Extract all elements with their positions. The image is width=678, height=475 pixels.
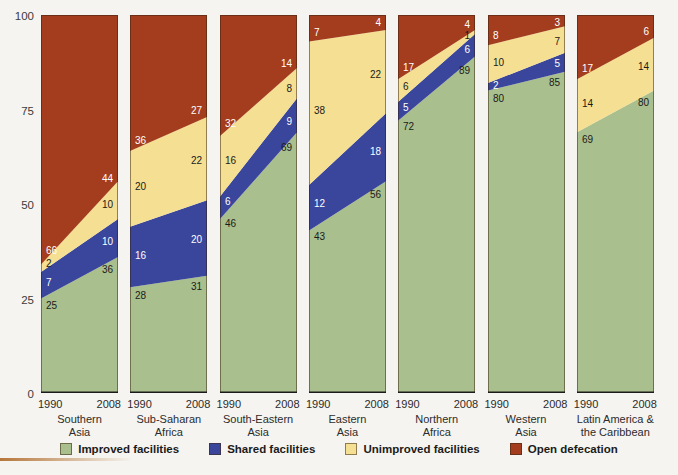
y-axis-tick-100: 100 [0,9,34,23]
value-label-unimproved-2008: 22 [370,69,382,80]
legend-item-open: Open defecation [510,443,618,455]
stacked-area-chart-south-eastern-asia: 4661632699814 [220,15,297,393]
value-label-improved-2008: 36 [102,264,114,275]
value-label-open-2008: 14 [280,58,292,69]
x-tick-2008: 2008 [543,398,567,410]
x-axis-years: 19902008 [395,398,478,410]
value-label-shared-2008: 6 [465,44,471,55]
stacked-area-chart-eastern-asia: 43123875618224 [309,15,386,393]
x-tick-2008: 2008 [97,398,121,410]
region-panel-southern-asia: 2572663610104419902008SouthernAsia [41,15,118,439]
x-tick-1990: 1990 [217,398,241,410]
value-label-unimproved-2008: 10 [102,199,114,210]
y-axis-tick-0: 0 [0,387,34,401]
page-accent-strip [0,458,132,461]
value-label-improved-1990: 80 [493,93,505,104]
legend-swatch-unimproved [345,443,357,455]
value-label-open-1990: 17 [403,62,415,73]
legend-item-improved: Improved facilities [60,443,179,455]
value-label-unimproved-2008: 14 [638,61,650,72]
value-label-improved-2008: 85 [548,77,560,88]
value-label-open-1990: 17 [582,63,594,74]
x-tick-1990: 1990 [395,398,419,410]
value-label-shared-1990: 6 [225,196,231,207]
region-name-line: the Caribbean [553,426,677,439]
value-label-improved-1990: 69 [582,134,594,145]
value-label-improved-1990: 46 [225,218,237,229]
value-label-unimproved-2008: 8 [286,83,292,94]
region-panel-western-asia: 8021088557319902008WesternAsia [488,15,565,439]
value-label-unimproved-2008: 22 [191,155,203,166]
stacked-area-chart-southern-asia: 25726636101044 [41,15,118,393]
region-panel-eastern-asia: 4312387561822419902008EasternAsia [309,15,386,439]
region-name-line: Latin America & [553,413,677,426]
region-panel-latin-america-the-caribbean: 6914178014619902008Latin America &the Ca… [577,15,654,439]
x-tick-2008: 2008 [275,398,299,410]
value-label-open-2008: 6 [643,26,649,37]
value-label-improved-2008: 69 [280,142,292,153]
value-label-open-1990: 7 [314,27,320,38]
value-label-open-1990: 66 [46,245,58,256]
x-tick-1990: 1990 [38,398,62,410]
value-label-unimproved-1990: 6 [403,81,409,92]
stacked-area-chart-western-asia: 80210885573 [488,15,565,393]
x-axis-years: 19902008 [38,398,121,410]
x-tick-1990: 1990 [306,398,330,410]
value-label-shared-1990: 7 [46,277,52,288]
value-label-shared-2008: 18 [370,146,382,157]
x-axis-years: 19902008 [217,398,300,410]
value-label-improved-1990: 43 [314,231,326,242]
legend-label-open: Open defecation [528,443,618,455]
sanitation-coverage-figure: 0255075100 2572663610104419902008Souther… [0,0,678,475]
value-label-improved-1990: 28 [135,290,147,301]
legend-swatch-open [510,443,522,455]
legend: Improved facilitiesShared facilitiesUnim… [0,443,678,455]
value-label-open-2008: 27 [191,105,203,116]
value-label-improved-2008: 80 [638,97,650,108]
region-panel-south-eastern-asia: 466163269981419902008South-EasternAsia [220,15,297,439]
value-label-shared-1990: 12 [314,198,326,209]
band-improved [488,72,565,393]
value-label-improved-2008: 56 [370,189,382,200]
value-label-improved-1990: 72 [403,121,415,132]
x-tick-1990: 1990 [485,398,509,410]
y-axis-tick-25: 25 [0,293,34,307]
region-name-latin-america-the-caribbean: Latin America &the Caribbean [553,413,677,439]
region-panel-northern-africa: 7256178961419902008NorthernAfrica [398,15,475,439]
value-label-unimproved-2008: 1 [465,30,471,41]
value-label-shared-2008: 5 [554,58,560,69]
value-label-open-2008: 4 [465,19,471,30]
value-label-open-1990: 36 [135,135,147,146]
value-label-open-1990: 32 [225,118,237,129]
value-label-shared-2008: 9 [286,116,292,127]
legend-label-unimproved: Unimproved facilities [363,443,479,455]
value-label-unimproved-1990: 38 [314,105,326,116]
value-label-unimproved-1990: 10 [493,57,505,68]
y-axis-tick-75: 75 [0,104,34,118]
x-tick-2008: 2008 [454,398,478,410]
stacked-area-chart-sub-saharan-africa: 2816203631202227 [130,15,207,393]
legend-item-unimproved: Unimproved facilities [345,443,479,455]
x-axis-years: 19902008 [485,398,568,410]
value-label-shared-1990: 5 [403,102,409,113]
legend-label-shared: Shared facilities [227,443,315,455]
legend-item-shared: Shared facilities [209,443,315,455]
value-label-unimproved-1990: 16 [225,155,237,166]
value-label-shared-1990: 2 [493,80,499,91]
value-label-unimproved-2008: 7 [554,36,560,47]
value-label-improved-2008: 89 [459,65,471,76]
legend-swatch-improved [60,443,72,455]
value-label-shared-2008: 20 [191,234,203,245]
value-label-unimproved-1990: 14 [582,98,594,109]
stacked-area-chart-latin-america-the-caribbean: 69141780146 [577,15,654,393]
value-label-improved-1990: 25 [46,300,58,311]
value-label-improved-2008: 31 [191,281,203,292]
value-label-open-1990: 8 [493,30,499,41]
value-label-shared-1990: 16 [135,250,147,261]
legend-swatch-shared [209,443,221,455]
x-axis-years: 19902008 [574,398,657,410]
x-tick-1990: 1990 [127,398,151,410]
value-label-shared-2008: 10 [102,236,114,247]
value-label-open-2008: 44 [102,173,114,184]
x-axis-years: 19902008 [127,398,210,410]
